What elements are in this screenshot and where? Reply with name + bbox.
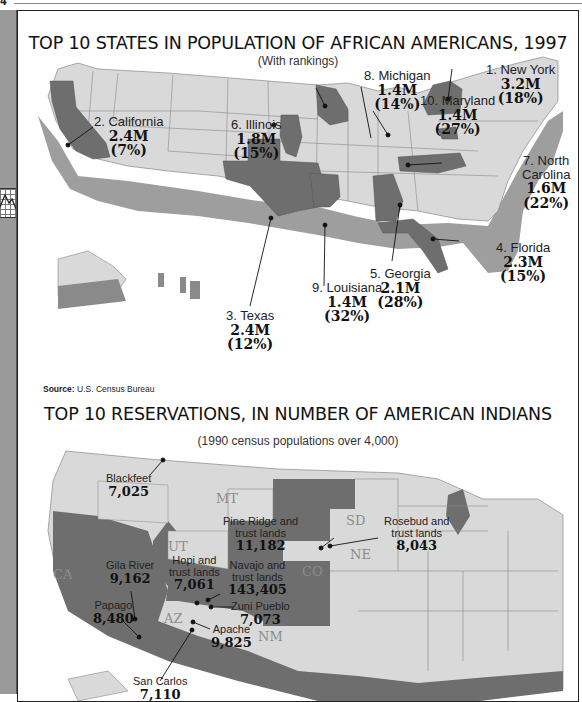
- abbrev-ca: CA: [53, 567, 72, 582]
- label-apache: Apache 9,825: [211, 624, 252, 649]
- label-illinois: 6. Illinois 1.8M (15%): [231, 118, 282, 161]
- label-north-carolina: 7. North Carolina 1.6M (22%): [522, 154, 570, 211]
- label-navajo: Navajo and trust lands 143,405: [228, 560, 287, 597]
- label-blackfeet: Blackfeet 7,025: [106, 473, 151, 498]
- label-rosebud: Rosebud and trust lands 8,043: [384, 516, 449, 553]
- label-pine-ridge: Pine Ridge and trust lands 11,182: [223, 516, 298, 553]
- abbrev-ne: NE: [350, 547, 371, 562]
- label-louisiana: 9. Louisiana 1.4M (32%): [312, 281, 382, 324]
- label-texas: 3. Texas 2.4M (12%): [226, 309, 274, 352]
- top-rule: [14, 3, 582, 4]
- label-new-york: 1. New York 3.2M (18%): [486, 63, 555, 106]
- label-florida: 4. Florida 2.3M (15%): [496, 241, 550, 284]
- state-louisiana: [310, 173, 340, 207]
- label-maryland: 10. Maryland 1.4M (27%): [420, 94, 495, 137]
- map2-subtitle: (1990 census populations over 4,000): [18, 434, 578, 448]
- page-number: 4: [0, 0, 7, 7]
- abbrev-mt: MT: [216, 491, 238, 506]
- abbrev-az: AZ: [164, 611, 182, 626]
- abbrev-sd: SD: [346, 513, 365, 528]
- label-california: 2. California 2.4M (7%): [94, 115, 163, 158]
- side-chart-icon: [0, 188, 16, 218]
- abbrev-co: CO: [302, 564, 323, 579]
- side-tab-strip: [0, 10, 17, 694]
- abbrev-ut: UT: [168, 539, 188, 554]
- label-hopi: Hopi and trust lands 7,061: [169, 555, 220, 592]
- label-san-carlos: San Carlos 7,110: [133, 676, 187, 701]
- map2-title: TOP 10 RESERVATIONS, IN NUMBER OF AMERIC…: [18, 404, 578, 424]
- figure-frame: TOP 10 STATES IN POPULATION OF AFRICAN A…: [17, 10, 579, 702]
- source-note: Source: U.S. Census Bureau: [43, 384, 155, 394]
- label-gila-river: Gila River 9,162: [106, 560, 154, 585]
- abbrev-nm: NM: [258, 629, 283, 644]
- label-papago: Papago 8,480: [93, 600, 134, 625]
